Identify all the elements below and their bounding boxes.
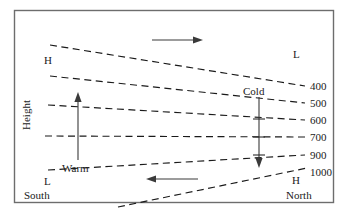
cold-air-label: Cold xyxy=(243,85,265,97)
pressure-level-label-400: 400 xyxy=(310,80,327,92)
isobar-line-700 xyxy=(45,136,305,137)
pressure-marker-bottom-left: L xyxy=(44,175,51,187)
cold-descent-arrow xyxy=(253,97,265,168)
pressure-marker-bottom-right: H xyxy=(292,174,300,186)
x-axis-label-north: North xyxy=(286,189,312,201)
pressure-marker-top-left: H xyxy=(44,54,52,66)
warm-air-label: Warm xyxy=(62,162,89,174)
pressure-level-label-700: 700 xyxy=(310,131,327,143)
figure-container: Height 400 500 600 700 900 1000 H L L H … xyxy=(0,0,345,213)
pressure-level-label-500: 500 xyxy=(310,97,327,109)
cross-section-diagram: Height 400 500 600 700 900 1000 H L L H … xyxy=(0,0,345,213)
pressure-level-label-900: 900 xyxy=(310,149,327,161)
isobar-line-1000 xyxy=(118,168,307,207)
pressure-level-label-600: 600 xyxy=(310,114,327,126)
pressure-marker-top-right: L xyxy=(293,48,300,60)
upper-level-flow-arrow xyxy=(152,36,203,43)
lower-level-flow-arrow xyxy=(146,175,198,182)
y-axis-label: Height xyxy=(20,100,32,130)
pressure-level-label-1000: 1000 xyxy=(310,166,333,178)
warm-ascent-arrow xyxy=(74,92,81,160)
isobar-line-600 xyxy=(48,105,305,120)
x-axis-label-south: South xyxy=(24,189,50,201)
